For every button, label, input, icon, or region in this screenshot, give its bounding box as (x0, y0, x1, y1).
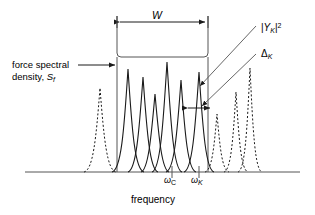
fsd-line-2: density, (12, 71, 47, 82)
omega-c-symbol: ω (164, 175, 171, 185)
dashed-peak-4 (238, 68, 262, 172)
tick-label-omega-k: ωK (191, 175, 203, 188)
fsd-subscript: f (53, 76, 55, 83)
omega-k-symbol: ω (191, 175, 198, 185)
omega-k-subscript: K (198, 179, 203, 186)
force-spectral-density-label: force spectral density, Sf (12, 59, 69, 86)
linewidth-leader (202, 54, 256, 106)
linewidth-symbol: Δ (261, 48, 268, 59)
in-band-peaks (112, 62, 214, 172)
mode-amplitude-label: |YK|2 (261, 20, 281, 36)
omega-c-subscript: C (171, 179, 176, 186)
fsd-line-1: force spectral (12, 59, 69, 70)
peak-5 (166, 80, 196, 172)
dashed-peak-3 (224, 92, 248, 172)
mode-amplitude-exponent: 2 (278, 22, 282, 29)
linewidth-subscript: K (268, 53, 273, 60)
linewidth-label: ΔK (261, 48, 272, 62)
peak-4 (152, 62, 182, 172)
bandwidth-label: W (152, 10, 162, 22)
x-axis-title: frequency (131, 194, 175, 206)
dashed-peak-1 (84, 88, 116, 172)
tick-label-omega-c: ωC (164, 175, 176, 188)
